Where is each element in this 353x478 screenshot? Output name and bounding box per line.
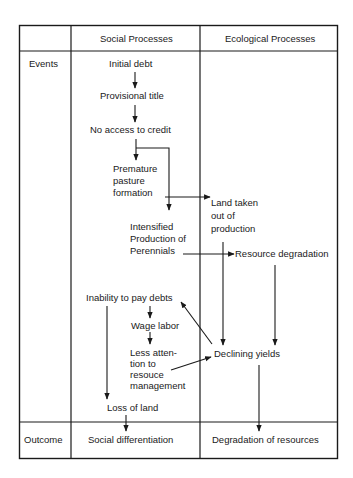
row-label-outcome: Outcome [24, 434, 63, 446]
node-provisional-title: Provisional title [100, 90, 164, 102]
outcome-degradation-of-resources: Degradation of resources [212, 434, 319, 446]
social-ecological-process-diagram: Social Processes Ecological Processes Ev… [0, 0, 353, 478]
node-loss-of-land: Loss of land [107, 402, 158, 414]
arrow-yields-to-inability [181, 302, 212, 344]
node-wage-labor: Wage labor [131, 320, 179, 332]
node-initial-debt: Initial debt [109, 58, 152, 70]
node-declining-yields: Declining yields [214, 348, 280, 360]
outcome-social-differentiation: Social differentiation [88, 434, 173, 446]
node-premature-pasture-formation: Premature pasture formation [113, 163, 157, 199]
row-label-events: Events [29, 58, 58, 70]
node-resource-degradation: Resource degradation [235, 248, 328, 260]
node-inability-to-pay-debts: Inability to pay debts [86, 292, 173, 304]
node-no-access-to-credit: No access to credit [90, 124, 171, 136]
node-less-attention: Less atten- tion to resouce management [130, 347, 185, 391]
node-intensified-production: Intensified Production of Perennials [130, 221, 186, 257]
node-land-taken-out-of-production: Land taken out of production [211, 196, 258, 235]
header-ecological-processes: Ecological Processes [225, 33, 315, 45]
header-social-processes: Social Processes [100, 33, 173, 45]
